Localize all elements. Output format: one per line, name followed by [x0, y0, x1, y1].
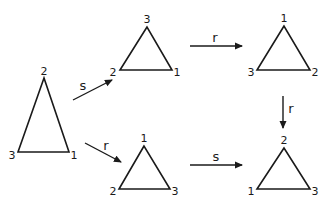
- diagram-canvas: [0, 0, 325, 211]
- triangle-after-s-then-r: [257, 26, 310, 70]
- triangle-start: [18, 78, 69, 152]
- vertex-label-after-sr-right: 2: [312, 67, 319, 78]
- vertex-label-after-rs-top: 2: [281, 135, 288, 146]
- vertex-label-after-s-left: 2: [110, 67, 117, 78]
- vertex-label-after-s-top: 3: [144, 14, 151, 25]
- vertex-label-after-rs-left: 1: [248, 186, 255, 197]
- symmetry-diagram: 2 3 1 3 2 1 1 3 2 1 2 3 2 1 3 s r r r s: [0, 0, 325, 211]
- vertex-label-after-r-right: 3: [172, 186, 179, 197]
- arrow-label-r-vertical: r: [288, 102, 293, 115]
- vertex-label-after-sr-left: 3: [248, 67, 255, 78]
- arrow-label-r-top: r: [212, 31, 217, 44]
- triangle-after-r: [119, 146, 170, 189]
- arrow-label-s-up: s: [80, 79, 87, 92]
- vertex-label-after-s-right: 1: [174, 67, 181, 78]
- vertex-label-start-top: 2: [41, 66, 48, 77]
- triangle-after-r-then-s: [257, 148, 310, 189]
- vertex-label-after-rs-right: 3: [312, 186, 319, 197]
- vertex-label-start-left: 3: [9, 150, 16, 161]
- triangle-after-s: [120, 27, 172, 70]
- vertex-label-start-right: 1: [71, 150, 78, 161]
- vertex-label-after-r-top: 1: [141, 133, 148, 144]
- arrow-label-r-down: r: [103, 139, 108, 152]
- vertex-label-after-sr-top: 1: [281, 13, 288, 24]
- arrow-label-s-bottom: s: [213, 150, 220, 163]
- vertex-label-after-r-left: 2: [110, 186, 117, 197]
